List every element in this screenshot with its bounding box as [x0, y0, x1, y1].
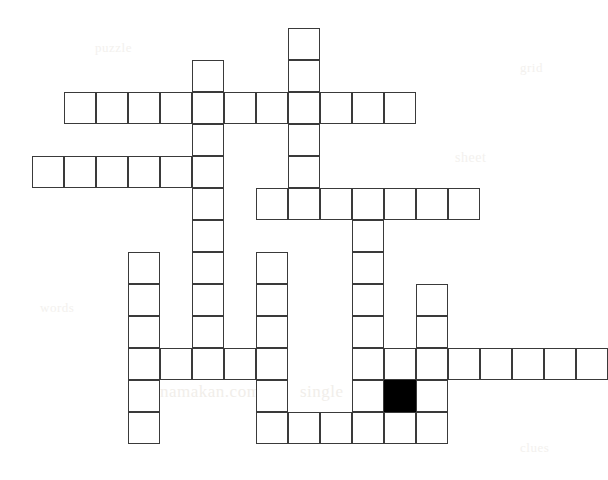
crossword-cell[interactable] — [352, 412, 384, 444]
crossword-cell[interactable] — [192, 92, 224, 124]
crossword-cell[interactable] — [256, 412, 288, 444]
crossword-cell[interactable] — [288, 412, 320, 444]
crossword-cell[interactable] — [576, 348, 608, 380]
crossword-cell[interactable] — [352, 380, 384, 412]
crossword-cell[interactable] — [192, 188, 224, 220]
crossword-cell[interactable] — [416, 284, 448, 316]
crossword-cell[interactable] — [288, 124, 320, 156]
crossword-cell[interactable] — [384, 92, 416, 124]
crossword-cell[interactable] — [416, 316, 448, 348]
crossword-cell[interactable] — [320, 92, 352, 124]
crossword-cell[interactable] — [96, 92, 128, 124]
crossword-cell[interactable] — [32, 156, 64, 188]
crossword-cell[interactable] — [288, 92, 320, 124]
crossword-cell[interactable] — [352, 348, 384, 380]
crossword-cell[interactable] — [448, 348, 480, 380]
crossword-cell[interactable] — [128, 380, 160, 412]
crossword-cell[interactable] — [128, 316, 160, 348]
crossword-cell[interactable] — [160, 156, 192, 188]
crossword-cell[interactable] — [416, 380, 448, 412]
crossword-cell[interactable] — [192, 348, 224, 380]
crossword-cell[interactable] — [320, 188, 352, 220]
crossword-cell[interactable] — [192, 220, 224, 252]
crossword-cell[interactable] — [192, 156, 224, 188]
crossword-cell[interactable] — [160, 348, 192, 380]
crossword-cell[interactable] — [128, 284, 160, 316]
crossword-cell[interactable] — [352, 92, 384, 124]
crossword-cell[interactable] — [256, 284, 288, 316]
crossword-cell[interactable] — [352, 284, 384, 316]
crossword-cell[interactable] — [352, 188, 384, 220]
crossword-cell[interactable] — [128, 252, 160, 284]
crossword-cell[interactable] — [288, 188, 320, 220]
crossword-cell[interactable] — [64, 156, 96, 188]
crossword-cell[interactable] — [288, 156, 320, 188]
crossword-cell[interactable] — [416, 412, 448, 444]
crossword-cell[interactable] — [256, 316, 288, 348]
crossword-cell-filled — [384, 380, 416, 412]
crossword-cell[interactable] — [96, 156, 128, 188]
crossword-cell[interactable] — [192, 284, 224, 316]
crossword-cell[interactable] — [256, 92, 288, 124]
crossword-cell[interactable] — [416, 348, 448, 380]
crossword-cell[interactable] — [480, 348, 512, 380]
crossword-cell[interactable] — [192, 124, 224, 156]
crossword-cell[interactable] — [192, 60, 224, 92]
crossword-cell[interactable] — [512, 348, 544, 380]
crossword-cell[interactable] — [256, 188, 288, 220]
crossword-cell[interactable] — [448, 188, 480, 220]
crossword-cell[interactable] — [544, 348, 576, 380]
crossword-cell[interactable] — [352, 252, 384, 284]
crossword-cell[interactable] — [352, 220, 384, 252]
crossword-cell[interactable] — [384, 348, 416, 380]
crossword-cell[interactable] — [224, 92, 256, 124]
crossword-cell[interactable] — [192, 252, 224, 284]
crossword-cell[interactable] — [160, 92, 192, 124]
crossword-cell[interactable] — [384, 412, 416, 444]
crossword-cell[interactable] — [288, 60, 320, 92]
crossword-cell[interactable] — [256, 380, 288, 412]
crossword-cell[interactable] — [256, 252, 288, 284]
crossword-cell[interactable] — [416, 188, 448, 220]
crossword-cell[interactable] — [288, 28, 320, 60]
crossword-cell[interactable] — [224, 348, 256, 380]
crossword-cell[interactable] — [352, 316, 384, 348]
crossword-cell[interactable] — [256, 348, 288, 380]
crossword-cell[interactable] — [128, 92, 160, 124]
crossword-cell[interactable] — [128, 412, 160, 444]
crossword-cell[interactable] — [384, 188, 416, 220]
crossword-cell[interactable] — [320, 412, 352, 444]
crossword-cell[interactable] — [128, 156, 160, 188]
crossword-cell[interactable] — [128, 348, 160, 380]
crossword-cell[interactable] — [64, 92, 96, 124]
crossword-cell[interactable] — [192, 316, 224, 348]
